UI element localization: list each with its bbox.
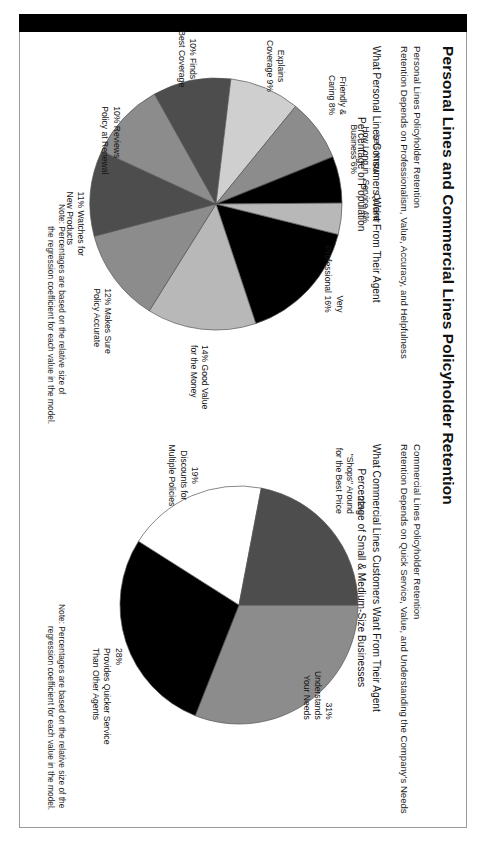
pie-label-line: Coverage 9%: [263, 40, 274, 92]
pie-label-line: 11% Watches for: [75, 192, 86, 256]
pie-label-reviews-at-renewal: 10% ReviewsPolicy at Renewal: [99, 106, 121, 174]
chart-title-personal-lines: What Personal Lines Consumers Want From …: [354, 46, 384, 303]
pie-label-line: 31%: [323, 671, 334, 720]
pie-label-very-professional: VeryProfessional 16%: [322, 246, 344, 313]
pie-label-quicker-service: QuickerService 4%: [360, 179, 382, 222]
footnote-line-1: Note: Percentages are based on the relat…: [57, 204, 67, 394]
pie-label-line: Discounts for: [177, 445, 188, 507]
pie-chart-personal-lines-svg: [90, 78, 342, 330]
pie-label-good-value: 14% Good Valuefor the Money: [188, 345, 210, 409]
section-heading-personal-lines: Personal Lines Policyholder Retention Re…: [398, 46, 424, 359]
pie-label-multiple-discounts: 19%Discounts forMultiple Policies: [166, 445, 200, 507]
pie-label-line: Multiple Policies: [166, 445, 177, 507]
pie-label-line: "Shops" Around: [344, 448, 355, 514]
pie-chart-personal-lines: [90, 78, 342, 330]
pie-label-line: Quicker: [371, 179, 382, 222]
pie-label-quicker-service: 28%Provides Quicker ServiceThan Other Ag…: [90, 648, 124, 744]
heading-line-1: Personal Lines Policyholder Retention: [411, 46, 424, 359]
pie-label-line: Friendly &: [337, 75, 348, 115]
pie-label-policy-accurate: 12% Makes SurePolicy Accurate: [91, 288, 113, 353]
pie-label-line: 22%: [355, 448, 366, 514]
pie-label-line: for the Money: [188, 345, 199, 409]
chart-title-sub: Percentage of Population: [354, 46, 369, 303]
pie-label-line: Best Coverage: [176, 30, 187, 87]
heading-line-2: Retention Depends on Professionalism, Va…: [398, 46, 411, 359]
pie-label-how-long-business: Lets KnowHow Long inBusiness 6%: [348, 124, 382, 174]
pie-label-shops-best-price: 22%"Shops" Aroundfor the Best Price: [332, 448, 366, 514]
pie-label-line: Explains: [275, 40, 286, 92]
footnote-personal-lines: Note: Percentages are based on the relat…: [44, 204, 67, 424]
pie-label-explains-coverage: ExplainsCoverage 9%: [263, 40, 285, 92]
page-border-right: [19, 827, 467, 828]
pie-label-line: Your Needs: [300, 671, 311, 720]
document-page: Personal Lines and Commercial Lines Poli…: [0, 0, 488, 842]
pie-label-line: Professional 16%: [322, 246, 333, 313]
pie-label-line: Very: [333, 246, 344, 313]
pie-label-line: Lets Know: [371, 124, 382, 174]
pie-label-line: Provides Quicker Service: [101, 648, 112, 744]
pie-label-line: 14% Good Value: [199, 345, 210, 409]
pie-label-line: Caring 8%: [326, 75, 337, 115]
page-border-top: [466, 14, 467, 828]
pie-label-line: 28%: [112, 648, 123, 744]
section-heading-commercial-lines: Commercial Lines Policyholder Retention …: [398, 444, 424, 814]
rotated-page-canvas: Personal Lines and Commercial Lines Poli…: [0, 0, 488, 842]
footnote-line-2: regression coefficient for each value in…: [44, 604, 55, 810]
pie-label-line: Understands: [312, 671, 323, 720]
pie-label-line: Policy at Renewal: [99, 106, 110, 174]
pie-label-line: Service 4%: [360, 179, 371, 222]
pie-label-line: Business 6%: [348, 124, 359, 174]
heading-line-2: Retention Depends on Quick Service, Valu…: [398, 444, 411, 814]
pie-label-finds-best-coverage: 10% FindsBest Coverage: [176, 30, 198, 87]
pie-label-line: 10% Reviews: [110, 106, 121, 174]
pie-label-line: 12% Makes Sure: [102, 288, 113, 353]
page-title: Personal Lines and Commercial Lines Poli…: [439, 46, 457, 505]
chart-title-main: What Personal Lines Consumers Want From …: [369, 46, 384, 303]
pie-label-line: for the Best Price: [332, 448, 343, 514]
page-border-bottom: [19, 14, 20, 828]
page-spine-bar: [19, 14, 467, 32]
footnote-line-2: the regression coefficient for each valu…: [44, 204, 55, 424]
pie-label-friendly-caring: Friendly &Caring 8%: [326, 75, 348, 115]
pie-label-line: 19%: [189, 445, 200, 507]
pie-label-line: How Long in: [360, 124, 371, 174]
chart-title-main: What Commercial Lines Customers Want Fro…: [369, 444, 384, 712]
pie-label-line: 10% Finds: [187, 30, 198, 87]
pie-label-line: Than Other Agents: [90, 648, 101, 744]
pie-label-line: Policy Accurate: [91, 288, 102, 353]
footnote-commercial-lines: Note: Percentages are based on the relat…: [44, 604, 67, 810]
heading-line-1: Commercial Lines Policyholder Retention: [411, 444, 424, 814]
pie-label-understands-needs: 31%UnderstandsYour Needs: [300, 671, 334, 720]
footnote-line-1: Note: Percentages are based on the relat…: [57, 604, 67, 808]
